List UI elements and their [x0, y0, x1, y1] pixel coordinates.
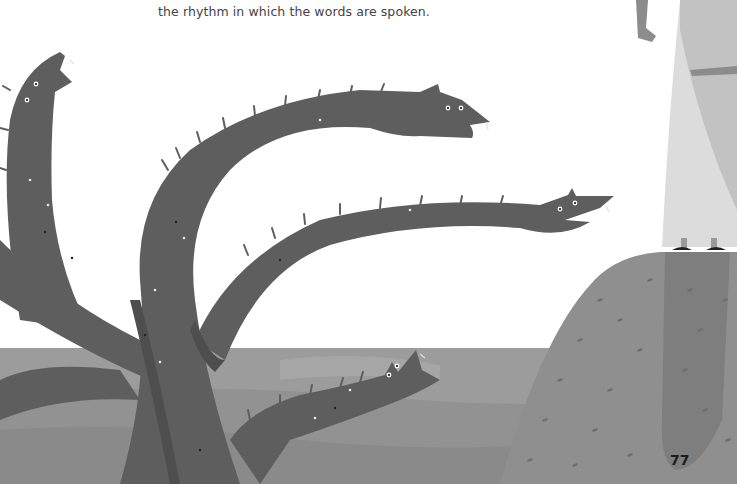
- page-number: 77: [670, 452, 689, 468]
- book-page: the rhythm in which the words are spoken…: [0, 0, 737, 484]
- robed-figure: [636, 0, 737, 250]
- body-text: the rhythm in which the words are spoken…: [158, 4, 430, 19]
- hydra-illustration: [0, 0, 737, 484]
